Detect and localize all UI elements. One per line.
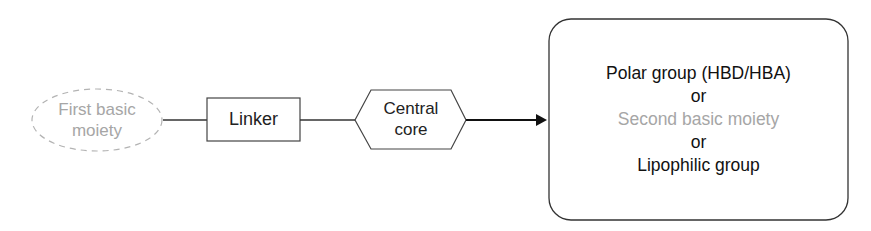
- linker-label: Linker: [207, 109, 300, 130]
- central-core-label: Central core: [360, 98, 462, 140]
- first-basic-moiety-line1: First basic: [42, 99, 152, 120]
- central-core-line1: Central: [360, 98, 462, 119]
- or-separator-1: or: [691, 85, 707, 108]
- central-core-line2: core: [360, 119, 462, 140]
- lipophilic-group-option: Lipophilic group: [637, 154, 760, 177]
- first-basic-moiety-line2: moiety: [42, 120, 152, 141]
- or-separator-2: or: [691, 131, 707, 154]
- first-basic-moiety-label: First basic moiety: [42, 99, 152, 141]
- second-basic-moiety-option: Second basic moiety: [618, 108, 779, 131]
- polar-group-option: Polar group (HBD/HBA): [606, 62, 791, 85]
- arrow-head-icon: [536, 114, 547, 126]
- terminal-group-label: Polar group (HBD/HBA) or Second basic mo…: [549, 19, 848, 220]
